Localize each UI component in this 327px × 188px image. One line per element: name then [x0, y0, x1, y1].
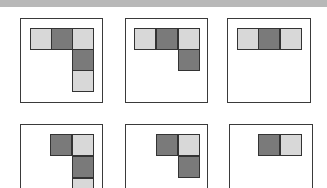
light-block [134, 28, 156, 50]
light-block [72, 28, 94, 50]
light-block [72, 134, 94, 156]
dark-block [258, 134, 280, 156]
dark-block [258, 28, 280, 50]
dark-block [156, 134, 178, 156]
light-block [30, 28, 52, 50]
light-block [178, 134, 200, 156]
light-block [72, 178, 94, 188]
light-block [280, 134, 302, 156]
light-block [280, 28, 302, 50]
dark-block [72, 49, 94, 71]
dark-block [178, 156, 200, 178]
dark-block [156, 28, 178, 50]
dark-block [51, 28, 73, 50]
dark-block [50, 134, 72, 156]
top-bar [0, 0, 327, 7]
light-block [72, 70, 94, 92]
light-block [237, 28, 259, 50]
dark-block [178, 49, 200, 71]
dark-block [72, 156, 94, 178]
light-block [178, 28, 200, 50]
